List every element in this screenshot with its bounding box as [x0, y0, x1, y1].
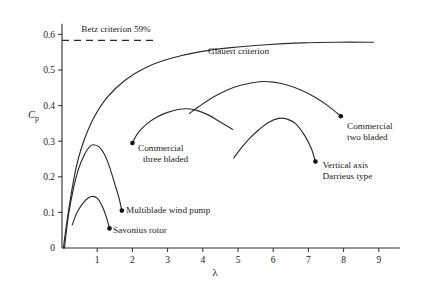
y-tick-label: 0.4	[43, 101, 55, 111]
y-tick-label: 0.3	[43, 137, 55, 147]
x-axis: 123456789	[62, 248, 400, 265]
savonius-rotor-endpoint-marker	[107, 226, 112, 231]
x-tick-label: 8	[341, 255, 346, 265]
x-tick-label: 2	[130, 255, 135, 265]
multiblade-wind-pump-label: Multiblade wind pump	[126, 205, 211, 215]
chart-canvas: 00.10.20.30.40.50.6 123456789 Betz crite…	[0, 0, 422, 284]
commercial-three-bladed-label-line1: Commercial	[138, 143, 184, 153]
commercial-three-bladed-endpoint-marker	[130, 141, 135, 146]
x-tick-label: 5	[236, 255, 241, 265]
reference-lines: Betz criterion 59%	[62, 24, 157, 40]
glauert-criterion-label: Glauert criterion	[208, 46, 269, 56]
vertical-axis-darrieus-endpoint-marker	[313, 159, 318, 164]
betz-criterion-label: Betz criterion 59%	[81, 24, 151, 34]
glauert-criterion-curve	[63, 42, 373, 248]
vertical-axis-darrieus-label-line1: Vertical axis	[322, 160, 368, 170]
commercial-three-bladed-curve	[132, 109, 232, 143]
commercial-two-bladed-endpoint-marker	[338, 114, 343, 119]
x-tick-label: 7	[306, 255, 311, 265]
x-tick-label: 6	[271, 255, 276, 265]
x-tick-label: 1	[95, 255, 100, 265]
wind-turbine-power-coefficient-chart: 00.10.20.30.40.50.6 123456789 Betz crite…	[0, 0, 422, 284]
y-tick-label: 0.2	[43, 172, 55, 182]
commercial-three-bladed-label-line2: three bladed	[143, 154, 189, 164]
axis-labels: Cpλ	[28, 109, 219, 278]
curve-annotations: Glauert criterionSavonius rotorMultiblad…	[113, 46, 393, 235]
vertical-axis-darrieus-label-line2: Darrieus type	[322, 171, 372, 181]
multiblade-wind-pump-endpoint-marker	[120, 208, 125, 213]
commercial-two-bladed-label-line1: Commercial	[347, 121, 393, 131]
vertical-axis-darrieus-curve	[234, 118, 316, 161]
commercial-two-bladed-curve	[189, 82, 340, 117]
y-tick-label: 0.1	[43, 208, 55, 218]
x-tick-label: 3	[165, 255, 170, 265]
x-tick-label: 4	[200, 255, 205, 265]
data-curves	[63, 42, 373, 248]
y-tick-label: 0.5	[43, 65, 55, 75]
savonius-rotor-label: Savonius rotor	[113, 225, 167, 235]
y-tick-label: 0	[50, 243, 55, 253]
x-tick-label: 9	[376, 255, 381, 265]
savonius-rotor-curve	[72, 196, 109, 228]
y-axis: 00.10.20.30.40.50.6	[43, 24, 62, 254]
commercial-two-bladed-label-line2: two bladed	[347, 132, 388, 142]
y-axis-title: Cp	[28, 109, 39, 123]
x-axis-title: λ	[213, 267, 219, 278]
y-tick-label: 0.6	[43, 30, 55, 40]
